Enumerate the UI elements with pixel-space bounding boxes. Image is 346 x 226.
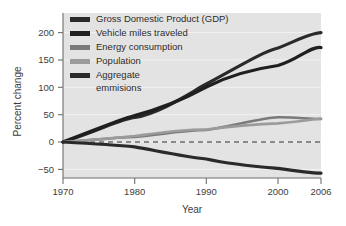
legend-label: Vehicle miles traveled <box>96 26 188 39</box>
legend-swatch-icon <box>70 45 90 50</box>
legend-label: Aggregate <box>96 68 140 81</box>
chart-figure: 200 150 100 50 0 −50 1970 1980 1990 2000… <box>0 0 346 226</box>
x-tick-label-1970: 1970 <box>43 186 83 197</box>
x-tick-label-1990: 1990 <box>186 186 226 197</box>
legend-label: Energy consumption <box>96 40 183 53</box>
y-axis-title: Percent change <box>12 65 23 139</box>
legend-swatch-icon <box>70 59 90 64</box>
legend-item-population: Population <box>70 54 229 68</box>
x-axis-title: Year <box>63 204 321 215</box>
y-tick-label-150: 150 <box>24 54 54 65</box>
y-tick-label-200: 200 <box>24 27 54 38</box>
chart-legend: Gross Domestic Product (GDP) Vehicle mil… <box>70 12 229 93</box>
legend-label: Population <box>96 54 141 67</box>
legend-swatch-icon <box>70 73 90 78</box>
y-axis-ticks <box>58 33 63 170</box>
x-tick-label-2006: 2006 <box>301 186 341 197</box>
legend-label: Gross Domestic Product (GDP) <box>96 12 229 25</box>
y-tick-label-0: 0 <box>24 136 54 147</box>
y-tick-label-minus50: −50 <box>24 164 54 175</box>
x-axis-ticks <box>63 178 321 184</box>
x-tick-label-1980: 1980 <box>115 186 155 197</box>
y-tick-label-100: 100 <box>24 82 54 93</box>
legend-item-energy-consumption: Energy consumption <box>70 40 229 54</box>
legend-item-aggregate-emmisions: Aggregate <box>70 68 229 82</box>
legend-swatch-icon <box>70 17 90 22</box>
legend-label-continuation: emmisions <box>96 82 229 93</box>
legend-item-gross-domestic-product: Gross Domestic Product (GDP) <box>70 12 229 26</box>
x-tick-label-2000: 2000 <box>258 186 298 197</box>
y-tick-label-50: 50 <box>24 109 54 120</box>
legend-item-vehicle-miles-traveled: Vehicle miles traveled <box>70 26 229 40</box>
legend-swatch-icon <box>70 31 90 36</box>
